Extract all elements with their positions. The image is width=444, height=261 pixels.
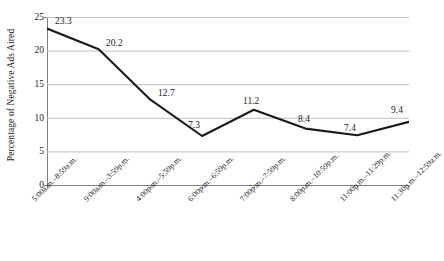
x-tick-label-4: 7:00p.m.–7:59p.m. <box>238 154 287 203</box>
x-tick-label-6: 11:00p.m.–11:29p.m. <box>338 149 393 204</box>
x-tick-label-0: 5:00a.m.–8:59a.m. <box>30 155 79 204</box>
x-tick-label-3: 6:00p.m.–6:59p.m. <box>186 154 235 203</box>
x-tick-label-1: 9:00a.m.–3:59p.m. <box>82 154 131 203</box>
x-tick-label-7: 11:30p.m.–12:59a.m. <box>389 149 444 204</box>
x-tick-label-2: 4:00p.m.–5:59p.m. <box>134 154 183 203</box>
x-tick-label-5: 8:00p.m.–10:59p.m. <box>288 151 340 203</box>
